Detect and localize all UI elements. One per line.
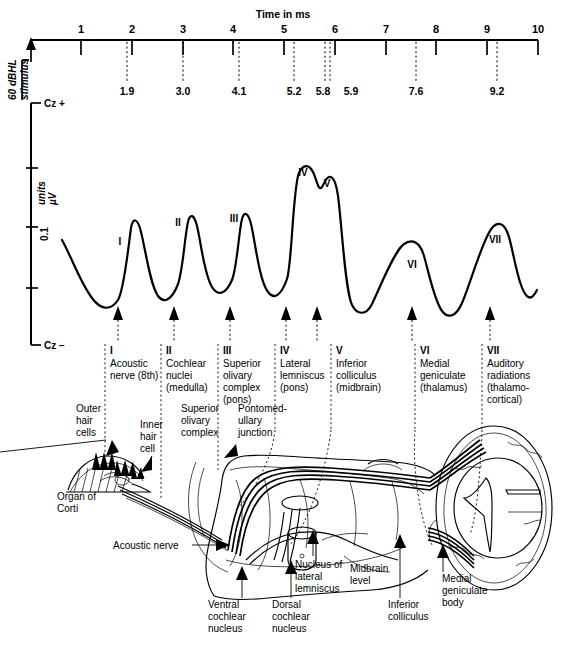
- mgb-line0: Medial: [442, 573, 471, 584]
- tick-label-1: 1: [78, 23, 84, 35]
- pontomedullary-line0: Pontomed-: [238, 403, 287, 414]
- inner-hair-cell-line0: Inner: [140, 419, 163, 430]
- generator-text-III-0: Superior: [223, 358, 261, 369]
- cz-positive-label: Cz +: [44, 98, 65, 109]
- time-axis-ticks: [81, 40, 538, 55]
- generator-text-V-1: colliculus: [336, 370, 377, 381]
- tick-label-8: 8: [433, 23, 439, 35]
- generator-arrow-VII: [485, 306, 495, 341]
- generator-text-IV-0: Lateral: [280, 358, 311, 369]
- superior-olivary-line1: olivary: [181, 415, 210, 426]
- inferior-colliculus-line0: Inferior: [388, 599, 420, 610]
- generator-arrow-IV: [281, 306, 291, 341]
- abr-waveform: [62, 166, 537, 316]
- generator-text-VII-3: cortical): [487, 394, 522, 405]
- cz-negative-label: Cz −: [44, 340, 65, 351]
- tick-label-4: 4: [230, 23, 237, 35]
- generator-numeral-V: V: [336, 345, 343, 356]
- acoustic-nerve-text: Acoustic nerve: [113, 540, 179, 551]
- inferior-colliculus-line1: colliculus: [388, 611, 429, 622]
- tick-label-2: 2: [129, 23, 135, 35]
- latency-label-5.9: 5.9: [344, 85, 359, 97]
- inferior-colliculus-arrow-icon: [394, 534, 406, 548]
- label-inferior-colliculus: Inferior colliculus: [388, 534, 429, 622]
- outer-hair-cells-line2: cells: [76, 427, 96, 438]
- amplitude-unit-line1: µV: [47, 191, 58, 206]
- generator-text-II-2: (medulla): [166, 382, 208, 393]
- label-pontomedullary-junction: Pontomed- ullary junction: [224, 403, 287, 458]
- pontomedullary-line2: junction: [237, 427, 272, 438]
- stimulus-label-line1: 60 dBHL: [7, 59, 18, 100]
- amplitude-scale-label: 0.1: [39, 227, 50, 241]
- label-nucleus-of-lateral-lemniscus: Nucleus of lateral lemniscus: [295, 530, 342, 594]
- generator-numeral-IV: IV: [280, 345, 290, 356]
- latency-label-1.9: 1.9: [120, 85, 135, 97]
- time-axis-tick-labels: 1 2 3 4 5 6 7 8 9 10: [78, 23, 544, 35]
- abr-figure: Time in ms 1 2 3 4 5 6 7 8 9 10: [0, 0, 566, 653]
- generator-column-VII: VII Auditory radiations (thalamo- cortic…: [487, 345, 530, 405]
- outer-hair-cells-leader: [0, 440, 106, 452]
- generator-text-I-1: nerve (8th): [110, 370, 158, 381]
- time-axis: Time in ms 1 2 3 4 5 6 7 8 9 10: [26, 8, 544, 62]
- generator-text-VII-0: Auditory: [487, 358, 524, 369]
- tick-label-9: 9: [484, 23, 490, 35]
- generator-columns: I Acoustic nerve (8th) II Cochlear nucle…: [105, 344, 530, 545]
- stimulus-label-line2: stimulus: [19, 58, 30, 100]
- generator-numeral-II: II: [166, 345, 172, 356]
- generator-arrow-VI: [407, 306, 417, 341]
- superior-olivary-line2: complex: [181, 427, 218, 438]
- organ-of-corti-line1: Corti: [57, 503, 78, 514]
- inner-hair-cell-line2: cell: [140, 443, 155, 454]
- latency-markers: 1.9 3.0 4.1 5.2 5.8 5.9 7.6 9.2: [120, 42, 505, 97]
- generator-column-I: I Acoustic nerve (8th): [110, 345, 158, 381]
- tick-label-3: 3: [180, 23, 186, 35]
- generator-arrow-V: [312, 306, 322, 341]
- ventral-cn-line2: nucleus: [208, 623, 242, 634]
- generator-text-IV-2: (pons): [280, 382, 308, 393]
- stimulus-arrow-icon: [26, 37, 36, 50]
- generator-arrows: [113, 306, 495, 341]
- generator-text-VI-2: (thalamus): [420, 382, 467, 393]
- midbrain-line1: level: [350, 575, 371, 586]
- dorsal-cn-line2: nucleus: [272, 623, 306, 634]
- generator-numeral-VI: VI: [420, 345, 430, 356]
- latency-label-5.8: 5.8: [316, 85, 331, 97]
- ventral-cn-line0: Ventral: [208, 599, 239, 610]
- generator-text-III-2: complex: [223, 382, 260, 393]
- brain-section-illustration: [428, 426, 552, 590]
- nll-line1: lateral: [295, 571, 322, 582]
- generator-column-II: II Cochlear nuclei (medulla): [166, 345, 208, 393]
- figure-root: Time in ms 1 2 3 4 5 6 7 8 9 10: [0, 0, 566, 653]
- ventral-cn-arrow-icon: [236, 566, 248, 580]
- outer-hair-cells-arrow-icon: [106, 440, 119, 456]
- generator-numeral-III: III: [223, 345, 232, 356]
- generator-column-IV: IV Lateral lemniscus (pons): [280, 345, 324, 393]
- peak-label-IV: IV: [298, 167, 308, 178]
- generator-text-VI-0: Medial: [420, 358, 449, 369]
- peak-labels: I II III IV V VI VII: [119, 167, 502, 270]
- label-inner-hair-cell: Inner hair cell: [140, 419, 163, 472]
- generator-text-IV-1: lemniscus: [280, 370, 324, 381]
- tick-label-7: 7: [383, 23, 389, 35]
- peak-label-V: V: [324, 178, 331, 189]
- generator-text-VII-2: (thalamo-: [487, 382, 529, 393]
- mgb-line2: body: [442, 597, 464, 608]
- latency-label-9.2: 9.2: [490, 85, 505, 97]
- abr-trace: [62, 166, 537, 316]
- dorsal-cn-line1: cochlear: [272, 611, 310, 622]
- inner-hair-cell-line1: hair: [140, 431, 157, 442]
- midbrain-line0: Midbrain: [350, 563, 388, 574]
- latency-label-7.6: 7.6: [409, 85, 424, 97]
- peak-label-VII: VII: [489, 234, 501, 245]
- peak-label-III: III: [230, 213, 239, 224]
- label-outer-hair-cells: Outer hair cells: [0, 403, 119, 456]
- organ-of-corti-line0: Organ of: [57, 491, 96, 502]
- pontomedullary-arrow-icon: [224, 444, 238, 458]
- generator-numeral-VII: VII: [487, 345, 499, 356]
- superior-olivary-line0: Superior: [181, 403, 219, 414]
- tick-label-5: 5: [281, 23, 287, 35]
- label-acoustic-nerve: Acoustic nerve: [113, 539, 230, 551]
- amplitude-unit-line2: units: [36, 181, 47, 205]
- latency-label-4.1: 4.1: [232, 85, 247, 97]
- generator-column-VI: VI Medial geniculate (thalamus): [420, 345, 467, 393]
